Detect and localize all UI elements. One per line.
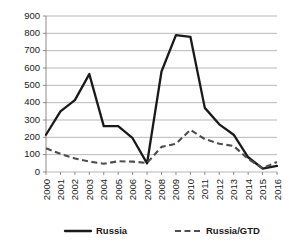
y-tick-label: 700 bbox=[24, 44, 40, 55]
data-series bbox=[46, 35, 277, 168]
x-tick-label: 2011 bbox=[199, 179, 210, 199]
y-tick-label: 900 bbox=[24, 10, 40, 21]
x-axis-tick-labels: 2000200120022003200420052006200720082009… bbox=[41, 172, 283, 200]
line-chart: 0100200300400500600700800900 20002001200… bbox=[0, 0, 293, 248]
y-tick-label: 600 bbox=[24, 62, 40, 73]
legend-label-1: Russia/GTD bbox=[206, 225, 260, 236]
y-tick-label: 500 bbox=[24, 79, 40, 90]
y-axis-tick-labels: 0100200300400500600700800900 bbox=[24, 10, 40, 177]
x-tick-label: 2000 bbox=[41, 179, 52, 200]
x-tick-label: 2009 bbox=[170, 179, 181, 200]
series-line-0 bbox=[46, 35, 277, 168]
y-tick-label: 300 bbox=[24, 114, 40, 125]
x-tick-label: 2012 bbox=[214, 179, 225, 200]
chart-legend: RussiaRussia/GTD bbox=[65, 225, 260, 236]
y-tick-label: 200 bbox=[24, 131, 40, 142]
x-tick-label: 2015 bbox=[257, 179, 268, 200]
x-tick-label: 2005 bbox=[113, 179, 124, 200]
x-tick-label: 2006 bbox=[127, 179, 138, 200]
x-tick-label: 2014 bbox=[243, 179, 254, 200]
y-tick-label: 400 bbox=[24, 96, 40, 107]
x-tick-label: 2016 bbox=[272, 179, 283, 200]
x-tick-label: 2004 bbox=[98, 179, 109, 200]
y-tick-label: 800 bbox=[24, 27, 40, 38]
x-tick-label: 2002 bbox=[69, 179, 80, 200]
x-tick-label: 2010 bbox=[185, 179, 196, 200]
x-tick-label: 2013 bbox=[228, 179, 239, 200]
legend-label-0: Russia bbox=[96, 225, 128, 236]
x-tick-label: 2001 bbox=[55, 179, 66, 200]
chart-canvas: 0100200300400500600700800900 20002001200… bbox=[0, 0, 293, 248]
x-tick-label: 2008 bbox=[156, 179, 167, 200]
x-tick-label: 2003 bbox=[84, 179, 95, 200]
y-tick-label: 100 bbox=[24, 148, 40, 159]
x-tick-label: 2007 bbox=[142, 179, 153, 200]
y-tick-label: 0 bbox=[35, 166, 40, 177]
